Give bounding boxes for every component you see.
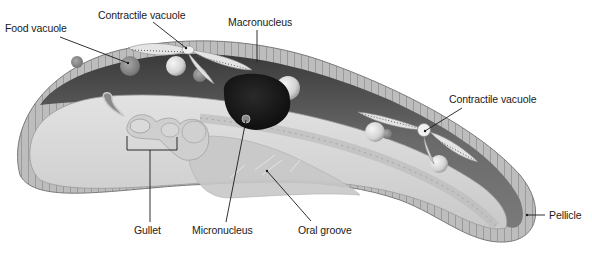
label-contractile-vacuole-right: Contractile vacuole [449, 93, 536, 105]
paramecium-illustration [0, 0, 592, 253]
label-oral-groove: Oral groove [298, 224, 352, 236]
label-pellicle: Pellicle [549, 209, 581, 221]
label-gullet: Gullet [134, 224, 161, 236]
label-food-vacuole: Food vacuole [5, 22, 67, 34]
label-macronucleus: Macronucleus [228, 16, 292, 28]
paramecium-diagram: Food vacuole Contractile vacuole Macronu… [0, 0, 592, 253]
label-micronucleus: Micronucleus [192, 224, 253, 236]
label-contractile-vacuole-top: Contractile vacuole [98, 9, 185, 21]
